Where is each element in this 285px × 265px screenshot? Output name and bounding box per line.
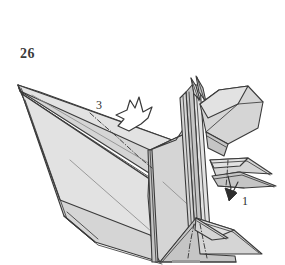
origami-diagram-canvas: .pf { fill: #d5d5d5; stroke: #3a3a3a; st… [0,0,285,265]
bottom-rule [172,260,200,263]
fold-label-1: 1 [242,195,248,207]
right-wing-flap-lower [212,172,276,188]
origami-figure-illustration: .pf { fill: #d5d5d5; stroke: #3a3a3a; st… [0,0,285,265]
push-fold-arrow-3 [116,97,152,131]
fold-label-3: 3 [96,99,102,111]
step-number: 26 [20,47,35,61]
